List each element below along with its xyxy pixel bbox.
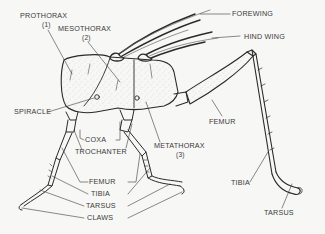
- label-tibia-leg: TIBIA: [91, 190, 110, 198]
- label-metathorax-number: (3): [176, 151, 185, 159]
- middle-leg: [120, 110, 184, 194]
- label-prothorax-number: (1): [42, 21, 51, 29]
- label-forewing: FOREWING: [232, 10, 273, 18]
- label-tarsus-hind: TARSUS: [264, 209, 294, 217]
- label-coxa: COXA: [85, 136, 106, 144]
- label-prothorax: PROTHORAX: [20, 12, 67, 20]
- insect-thorax-diagram: PROTHORAX (1) MESOTHORAX (2) FOREWING HI…: [0, 0, 325, 234]
- leader-lines: [22, 14, 292, 218]
- label-hind-wing: HIND WING: [244, 33, 285, 41]
- label-tibia-hind: TIBIA: [231, 179, 250, 187]
- label-tarsus-leg: TARSUS: [86, 202, 116, 210]
- label-femur-hind: FEMUR: [209, 118, 236, 126]
- label-mesothorax: MESOTHORAX: [58, 25, 111, 33]
- label-femur-leg: FEMUR: [89, 178, 116, 186]
- label-spiracle: SPIRACLE: [14, 108, 51, 116]
- hind-wing-shape: [140, 32, 218, 60]
- forewing-shape: [116, 10, 210, 57]
- label-trochanter: TROCHANTER: [75, 148, 127, 156]
- hind-leg: [174, 50, 302, 194]
- label-mesothorax-number: (2): [82, 34, 91, 42]
- thorax-body: [61, 55, 178, 113]
- label-claws: CLAWS: [87, 214, 113, 222]
- label-metathorax: METATHORAX: [154, 142, 205, 150]
